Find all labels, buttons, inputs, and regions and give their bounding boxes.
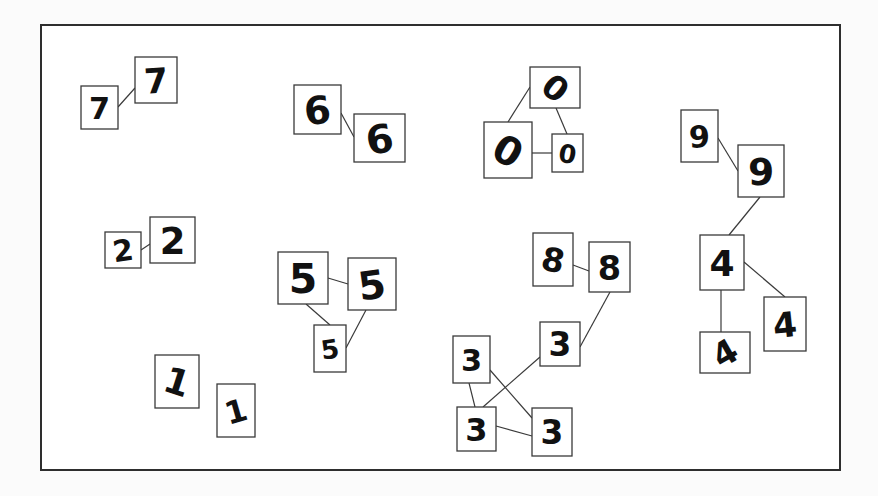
digit-glyph: 4 — [771, 304, 799, 346]
digit-node-7a: 7 — [81, 86, 118, 129]
digit-node-2b: 2 — [150, 217, 195, 263]
digit-node-2a: 2 — [105, 232, 141, 269]
digit-node-7b: 7 — [135, 57, 177, 103]
digit-glyph: 9 — [688, 119, 710, 155]
digit-similarity-graph: 7766000994442255588333311 — [0, 0, 878, 496]
digit-node-8b: 8 — [589, 242, 630, 292]
digit-node-6b: 6 — [354, 114, 405, 164]
digit-node-1a: 1 — [155, 355, 199, 408]
digit-node-9b: 9 — [738, 145, 784, 197]
digit-node-3c: 3 — [532, 408, 572, 456]
digit-glyph: 5 — [289, 255, 318, 303]
digit-node-4b: 4 — [764, 297, 806, 351]
digit-glyph: 4 — [709, 243, 734, 285]
digit-node-9a: 9 — [681, 110, 718, 162]
digit-node-0c: 0 — [552, 134, 583, 172]
digit-node-3a: 3 — [453, 336, 490, 383]
digit-glyph: 2 — [160, 220, 186, 263]
digit-node-5a: 5 — [278, 252, 328, 304]
digit-node-5c: 5 — [314, 325, 346, 372]
digit-node-0b: 0 — [484, 122, 532, 178]
digit-glyph: 3 — [461, 343, 482, 378]
digit-node-5b: 5 — [348, 258, 396, 310]
digit-node-3b: 3 — [457, 407, 496, 451]
digit-node-0a: 0 — [530, 66, 580, 111]
digit-node-4a: 4 — [700, 235, 744, 290]
digit-node-6a: 6 — [294, 85, 341, 134]
digit-glyph: 7 — [143, 60, 170, 102]
digit-node-8a: 8 — [533, 233, 573, 286]
digit-glyph: 3 — [541, 414, 564, 452]
digit-node-3m: 3 — [540, 322, 580, 366]
digit-node-1b: 1 — [217, 384, 255, 437]
digit-glyph: 8 — [598, 249, 621, 288]
digit-glyph: 3 — [465, 411, 487, 449]
digit-glyph: 6 — [302, 87, 333, 135]
digit-node-4c: 4 — [700, 331, 750, 376]
digit-glyph: 7 — [89, 91, 110, 126]
digit-glyph: 3 — [549, 326, 572, 364]
digit-glyph: 9 — [748, 150, 774, 194]
